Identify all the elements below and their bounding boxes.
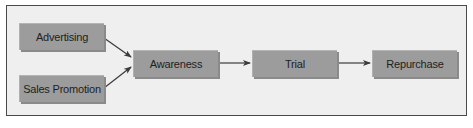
arrow-sales-promotion-to-awareness — [104, 67, 131, 88]
node-sales-promotion: Sales Promotion — [19, 75, 104, 102]
node-trial: Trial — [252, 50, 337, 77]
arrow-advertising-to-awareness — [104, 38, 131, 57]
node-repurchase: Repurchase — [372, 50, 457, 77]
node-label: Advertising — [36, 31, 88, 43]
node-awareness: Awareness — [133, 50, 218, 77]
node-label: Trial — [285, 58, 305, 70]
node-label: Awareness — [150, 58, 202, 70]
node-advertising: Advertising — [19, 23, 104, 50]
node-label: Repurchase — [386, 58, 443, 70]
node-label: Sales Promotion — [23, 83, 101, 95]
